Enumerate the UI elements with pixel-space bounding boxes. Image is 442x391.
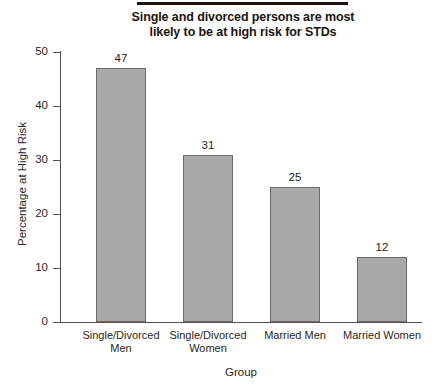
bar-single-divorced-women bbox=[183, 155, 233, 322]
y-tick-label-40: 40 bbox=[8, 100, 48, 111]
y-tick-label-30: 30 bbox=[8, 154, 48, 165]
bar-chart-figure: Single and divorced persons are most lik… bbox=[0, 0, 442, 391]
title-rule bbox=[137, 2, 348, 5]
x-category-label-4-line-1: Married Women bbox=[343, 329, 421, 341]
y-tick-mark-20 bbox=[53, 214, 60, 215]
x-category-label-4: Married Women bbox=[327, 329, 437, 342]
bar-value-label-1: 47 bbox=[91, 52, 151, 64]
y-tick-mark-30 bbox=[53, 160, 60, 161]
x-axis-line bbox=[60, 322, 422, 323]
y-tick-label-20: 20 bbox=[8, 208, 48, 219]
bar-value-label-3: 25 bbox=[265, 171, 325, 183]
x-category-label-2-line-1: Single/Divorced bbox=[169, 329, 246, 341]
y-tick-mark-0 bbox=[53, 322, 60, 323]
y-tick-label-50: 50 bbox=[8, 46, 48, 57]
chart-title-line-1: Single and divorced persons are most bbox=[118, 10, 368, 25]
chart-title: Single and divorced persons are most lik… bbox=[118, 10, 368, 40]
y-tick-mark-40 bbox=[53, 106, 60, 107]
y-tick-label-0: 0 bbox=[8, 316, 48, 327]
x-axis-title: Group bbox=[181, 366, 301, 378]
bar-value-label-4: 12 bbox=[352, 241, 412, 253]
y-tick-mark-50 bbox=[53, 52, 60, 53]
y-tick-label-10: 10 bbox=[8, 262, 48, 273]
y-axis-line bbox=[60, 51, 61, 323]
chart-title-line-2: likely to be at high risk for STDs bbox=[118, 25, 368, 40]
bar-married-men bbox=[270, 187, 320, 322]
y-axis-title: Percentage at High Risk bbox=[16, 114, 28, 254]
y-tick-mark-10 bbox=[53, 268, 60, 269]
x-category-label-2-line-2: Women bbox=[189, 342, 227, 354]
bar-single-divorced-men bbox=[96, 68, 146, 322]
x-category-label-1-line-1: Single/Divorced bbox=[82, 329, 159, 341]
bar-married-women bbox=[357, 257, 407, 322]
bar-value-label-2: 31 bbox=[178, 139, 238, 151]
x-category-label-3-line-1: Married Men bbox=[264, 329, 326, 341]
x-category-label-1-line-2: Men bbox=[110, 342, 131, 354]
